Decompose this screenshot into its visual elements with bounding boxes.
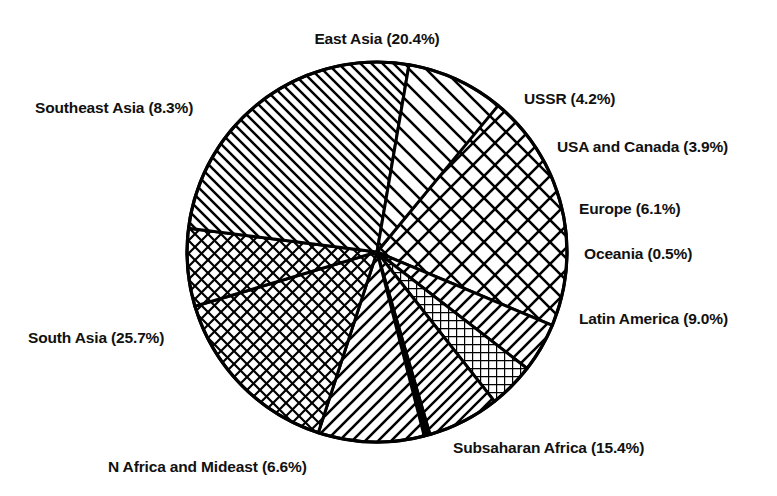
slice-label-europe: Europe (6.1%) <box>579 201 680 217</box>
slice-label-east-asia: East Asia (20.4%) <box>314 31 439 47</box>
pie-slices-group <box>187 62 567 442</box>
pie-chart-figure: East Asia (20.4%) USSR (4.2%) USA and Ca… <box>0 0 777 496</box>
slice-label-oceania: Oceania (0.5%) <box>584 246 692 262</box>
slice-label-south-asia: South Asia (25.7%) <box>28 330 164 346</box>
slice-label-latin-america: Latin America (9.0%) <box>579 311 728 327</box>
slice-label-southeast-asia: Southeast Asia (8.3%) <box>35 100 193 116</box>
slice-label-ussr: USSR (4.2%) <box>524 91 615 107</box>
slice-label-usa-and-canada: USA and Canada (3.9%) <box>557 139 728 155</box>
slice-label-n-africa-and-mideast: N Africa and Mideast (6.6%) <box>108 459 307 475</box>
pie-slice-south-asia[interactable] <box>189 62 410 252</box>
slice-label-subsaharan-africa: Subsaharan Africa (15.4%) <box>453 440 644 456</box>
